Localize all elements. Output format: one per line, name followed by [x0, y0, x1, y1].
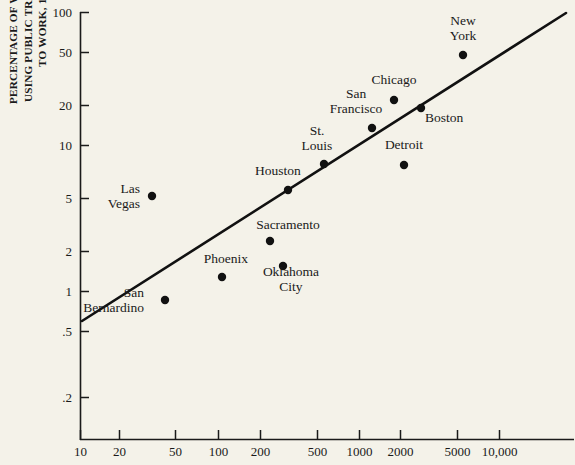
point-label-oklahoma-city-line-1: Oklahoma	[241, 264, 341, 279]
point-label-st-louis: St. Louis	[267, 123, 367, 153]
data-point-detroit	[400, 161, 408, 169]
point-label-phoenix: Phoenix	[176, 251, 276, 266]
x-tick-label-2000: 2000	[371, 444, 431, 460]
point-label-st-louis-line-1: St.	[267, 123, 367, 138]
point-label-oklahoma-city-line-2: City	[241, 279, 341, 294]
y-tick-label-20: 20	[18, 98, 72, 114]
x-tick-label-200: 200	[231, 444, 291, 460]
point-label-houston-line-1: Houston	[228, 163, 328, 178]
y-tick-label-10: 10	[18, 138, 72, 154]
x-tick-label-20: 20	[90, 444, 150, 460]
point-label-las-vegas-line-1: Las	[50, 181, 140, 196]
data-point-sacramento	[266, 237, 274, 245]
point-label-san-francisco-line-1: San	[306, 86, 406, 101]
point-label-oklahoma-city: Oklahoma City	[241, 264, 341, 294]
data-point-boston	[417, 104, 425, 112]
point-label-phoenix-line-1: Phoenix	[176, 251, 276, 266]
y-tick-label-100: 100	[18, 5, 72, 21]
data-point-san-francisco	[368, 124, 376, 132]
y-tick-label-0.2: .2	[18, 390, 72, 406]
point-label-detroit-line-1: Detroit	[354, 137, 454, 152]
point-label-las-vegas-line-2: Vegas	[50, 196, 140, 211]
plot-canvas	[0, 0, 575, 465]
point-label-sacramento-line-1: Sacramento	[238, 217, 338, 232]
data-point-san-bernardino	[161, 296, 169, 304]
scatter-plot: PERCENTAGE OF WORKERS USING PUBLIC TRANS…	[0, 0, 575, 465]
point-label-sacramento: Sacramento	[238, 217, 338, 232]
point-label-chicago: Chicago	[344, 72, 444, 87]
point-label-boston: Boston	[425, 110, 525, 125]
point-label-san-bernardino-line-1: San	[54, 285, 144, 300]
y-tick-label-2: 2	[18, 244, 72, 260]
point-label-chicago-line-1: Chicago	[344, 72, 444, 87]
x-tick-marks	[81, 430, 500, 440]
point-label-houston: Houston	[228, 163, 328, 178]
point-label-san-francisco-line-2: Francisco	[306, 101, 406, 116]
data-point-houston	[284, 186, 292, 194]
point-label-san-francisco: San Francisco	[306, 86, 406, 116]
point-label-new-york-line-2: York	[413, 28, 513, 43]
point-label-detroit: Detroit	[354, 137, 454, 152]
x-tick-label-10000: 10,000	[470, 444, 530, 460]
point-label-san-bernardino: San Bernardino	[54, 285, 144, 315]
data-point-new-york	[459, 51, 467, 59]
point-label-new-york-line-1: New	[413, 13, 513, 28]
point-label-san-bernardino-line-2: Bernardino	[54, 300, 144, 315]
point-label-new-york: New York	[413, 13, 513, 43]
data-point-las-vegas	[148, 192, 156, 200]
y-tick-label-0.5: .5	[18, 324, 72, 340]
point-label-las-vegas: Las Vegas	[50, 181, 140, 211]
y-tick-label-50: 50	[18, 45, 72, 61]
point-label-boston-line-1: Boston	[425, 110, 525, 125]
point-label-st-louis-line-2: Louis	[267, 138, 367, 153]
data-point-phoenix	[218, 273, 226, 281]
